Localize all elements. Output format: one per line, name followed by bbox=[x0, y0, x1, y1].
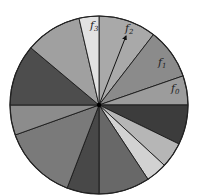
center-hub bbox=[97, 103, 101, 107]
pie-wheel-diagram: f3f2f1f0 bbox=[0, 0, 197, 196]
